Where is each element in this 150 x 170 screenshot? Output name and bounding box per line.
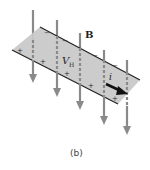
svg-text:−: − [92,52,98,60]
hall-effect-diagram: − − − − + + + + + B V H i (b) [0,0,150,170]
svg-text:−: − [44,29,50,37]
svg-text:−: − [112,62,118,70]
svg-text:+: + [40,58,46,66]
svg-text:H: H [69,61,74,68]
svg-text:+: + [88,82,94,90]
magnetic-field-label: B [85,29,93,40]
svg-text:−: − [62,37,68,45]
svg-text:+: + [112,95,118,103]
current-label: i [109,72,112,82]
svg-text:+: + [17,47,23,55]
figure-caption: (b) [70,148,83,158]
svg-text:+: + [64,70,70,78]
